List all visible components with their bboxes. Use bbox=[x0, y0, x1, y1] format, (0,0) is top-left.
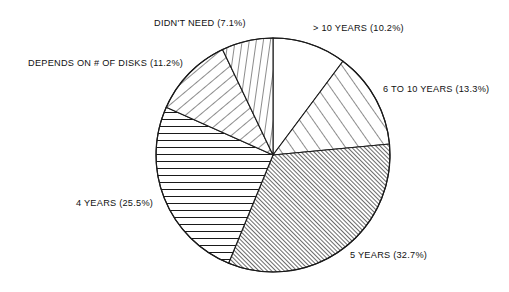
pie-label-didnt-need: DIDN'T NEED (7.1%) bbox=[154, 19, 246, 28]
pie-label-depends-on-number-of-disks: DEPENDS ON # OF DISKS (11.2%) bbox=[28, 59, 183, 68]
pie-label-gt-10-years: > 10 YEARS (10.2%) bbox=[313, 24, 404, 33]
pie-chart-figure: DIDN'T NEED (7.1%) > 10 YEARS (10.2%) DE… bbox=[0, 0, 509, 292]
pie-label-6-to-10-years: 6 TO 10 YEARS (13.3%) bbox=[383, 85, 489, 94]
pie-chart-svg bbox=[0, 0, 509, 292]
pie-label-4-years: 4 YEARS (25.5%) bbox=[76, 199, 153, 208]
pie-label-5-years: 5 YEARS (32.7%) bbox=[350, 251, 427, 260]
